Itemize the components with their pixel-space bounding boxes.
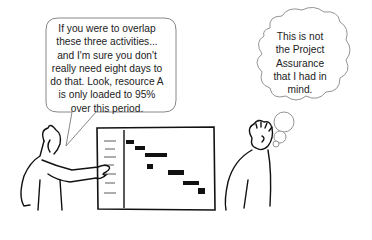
thought-trail-circle (273, 141, 279, 147)
gantt-bar (183, 181, 199, 185)
thought-line: mind. (262, 83, 338, 96)
speech-line: do that. Look, resource A (48, 75, 166, 88)
thought-line: This is not (262, 30, 338, 43)
thought-trail-circle (274, 112, 294, 132)
thought-line: the Project (262, 43, 338, 56)
gantt-bar (126, 140, 134, 144)
gantt-bar (198, 188, 205, 194)
speech-line: really need eight days to (48, 62, 166, 75)
listener-figure (225, 120, 272, 210)
thought-bubble-text: This is not the Project Assurance that I… (262, 30, 338, 96)
speech-line: and I'm sure you don't (48, 49, 166, 62)
thought-line: that I had in (262, 70, 338, 83)
speech-line: If you were to overlap (48, 22, 166, 35)
speech-line: over this period. (48, 102, 166, 115)
speech-bubble-text: If you were to overlap these three activ… (48, 22, 166, 115)
presenter-figure (21, 125, 110, 210)
speech-line: these three activities... (48, 35, 166, 48)
speech-line: is only loaded to 95% (48, 88, 166, 101)
gantt-bar (147, 164, 153, 169)
gantt-bar (168, 170, 184, 175)
gantt-bar (135, 146, 145, 150)
gantt-chart (97, 127, 215, 210)
thought-line: Assurance (262, 57, 338, 70)
gantt-bar (145, 153, 167, 157)
